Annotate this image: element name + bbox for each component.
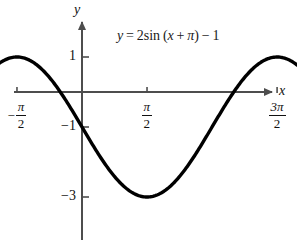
x-tick-0-fraction: π2 (16, 100, 27, 130)
y-tick-label-minus-1: −1 (61, 119, 76, 133)
y-axis-label: y (74, 3, 80, 17)
x-tick-2-numerator: 3π (269, 100, 286, 116)
x-tick-label-3pi-over-2: 3π2 (269, 100, 286, 130)
x-tick-1-numerator: π (142, 100, 153, 116)
x-tick-0-numerator: π (16, 100, 27, 116)
x-tick-0-sign: − (7, 109, 15, 122)
x-tick-label-minus-pi-over-2: −π2 (7, 100, 26, 130)
graph-figure: y = 2sin (x + π) − 1 x y 1 −1 −3 −π2 π2 … (0, 0, 297, 240)
x-axis-label: x (279, 84, 285, 98)
equation-plus: + (177, 28, 185, 43)
equation-function: sin (144, 28, 160, 43)
equation-annotation: y = 2sin (x + π) − 1 (117, 28, 220, 44)
x-tick-1-fraction: π2 (142, 100, 153, 130)
equation-equals: = (126, 28, 134, 43)
equation-amplitude: 2 (137, 28, 144, 43)
x-tick-2-denominator: 2 (269, 116, 286, 131)
x-tick-label-pi-over-2: π2 (142, 100, 153, 130)
x-tick-2-fraction: 3π2 (269, 100, 286, 130)
x-tick-0-denominator: 2 (16, 116, 27, 131)
y-tick-label-1: 1 (69, 49, 76, 63)
equation-minus: − (202, 28, 210, 43)
y-tick-label-minus-3: −3 (61, 189, 76, 203)
x-tick-1-denominator: 2 (142, 116, 153, 131)
equation-offset: 1 (213, 28, 220, 43)
